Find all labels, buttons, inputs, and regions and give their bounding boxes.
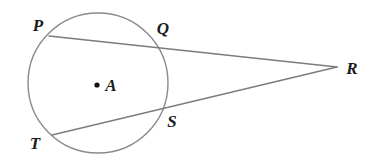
secant-line-PR — [49, 36, 337, 67]
geometry-canvas — [0, 0, 385, 166]
vertex-label-s: S — [167, 113, 176, 130]
vertex-label-p: P — [33, 17, 43, 34]
center-point-dot — [94, 82, 99, 87]
geometry-diagram: P Q R S T A — [0, 0, 385, 166]
center-label-a: A — [105, 77, 116, 94]
vertex-label-r: R — [346, 60, 357, 77]
vertex-label-t: T — [30, 135, 40, 152]
vertex-label-q: Q — [157, 20, 169, 37]
secant-line-TR — [52, 67, 337, 135]
